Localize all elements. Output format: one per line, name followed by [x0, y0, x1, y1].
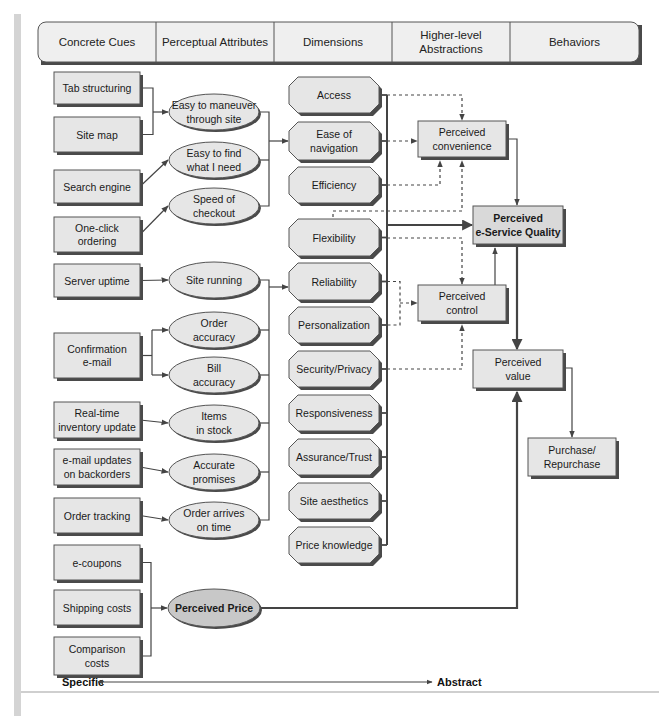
dimension-label-responsiveness: Responsiveness	[295, 407, 372, 419]
dimension-label-personalization: Personalization	[298, 319, 370, 331]
attribute-label-running: Site running	[186, 274, 242, 286]
cue-label-tracking: Order tracking	[64, 510, 131, 522]
diagram-nodes: Concrete CuesPerceptual AttributesDimens…	[38, 22, 642, 688]
dimension-label-security: Security/Privacy	[296, 363, 372, 375]
cue-label-coupons: e-coupons	[72, 557, 121, 569]
header-column-0: Concrete Cues	[59, 36, 136, 48]
dimension-label-access: Access	[317, 89, 351, 101]
abstraction-label-convenience: Perceivedconvenience	[433, 126, 492, 152]
cue-label-sitemap: Site map	[76, 129, 118, 141]
dimension-label-ease: Ease ofnavigation	[310, 128, 358, 154]
cue-label-search: Search engine	[63, 181, 131, 193]
attribute-label-find: Easy to findwhat I need	[186, 147, 242, 173]
attribute-label-speed: Speed ofcheckout	[193, 193, 235, 219]
axis-label-specific: Specific	[62, 676, 104, 688]
dimension-label-priceknow: Price knowledge	[295, 539, 372, 551]
dimension-label-efficiency: Efficiency	[312, 179, 357, 191]
dimension-label-flexibility: Flexibility	[312, 232, 356, 244]
header-column-2: Dimensions	[303, 36, 363, 48]
header-column-3: Higher-levelAbstractions	[419, 29, 483, 55]
attribute-label-promises: Accuratepromises	[193, 459, 236, 485]
diagram-canvas: Concrete CuesPerceptual AttributesDimens…	[0, 0, 659, 716]
header-column-4: Behaviors	[549, 36, 600, 48]
dimension-label-reliability: Reliability	[312, 276, 358, 288]
dimension-label-aesthetics: Site aesthetics	[300, 495, 368, 507]
behavior-label-purchase: Purchase/Repurchase	[544, 444, 601, 470]
dimension-label-assurance: Assurance/Trust	[296, 451, 372, 463]
cue-label-uptime: Server uptime	[64, 275, 130, 287]
cue-label-shipping: Shipping costs	[63, 602, 131, 614]
attribute-label-price: Perceived Price	[175, 602, 253, 614]
axis-label-abstract: Abstract	[437, 676, 482, 688]
cue-label-backorder: e-mail updateson backorders	[63, 454, 132, 480]
cue-label-oneclick: One-clickordering	[75, 222, 120, 248]
cue-label-tab: Tab structuring	[63, 82, 132, 94]
left-margin-bar	[14, 14, 21, 716]
header-column-1: Perceptual Attributes	[162, 36, 268, 48]
